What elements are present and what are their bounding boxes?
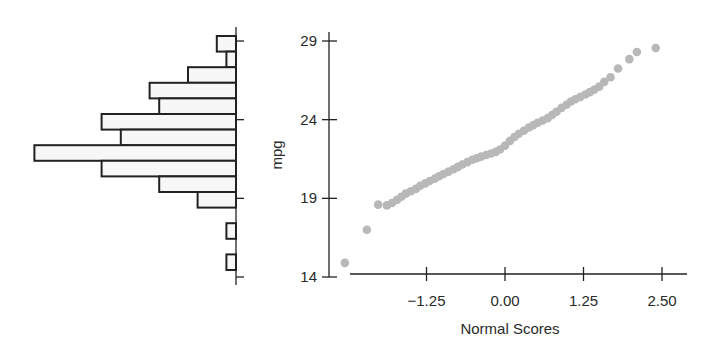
mpg-histogram <box>34 36 236 270</box>
histogram-bar <box>226 254 236 270</box>
histogram-bar <box>159 176 236 192</box>
x-tick-label: 1.25 <box>569 292 598 309</box>
chart-figure: 14192429−1.250.001.252.50 mpg Normal Sco… <box>0 0 716 349</box>
x-axis-title: Normal Scores <box>460 320 559 337</box>
data-point <box>651 44 660 53</box>
histogram-axis <box>236 27 244 285</box>
data-point <box>625 55 634 64</box>
histogram-bar <box>217 36 236 52</box>
y-tick-label: 14 <box>300 268 317 285</box>
data-point <box>614 64 623 73</box>
scatter-axes: 14192429−1.250.001.252.50 <box>300 32 687 309</box>
data-point <box>606 73 615 82</box>
data-point <box>633 48 642 57</box>
x-tick-label: 2.50 <box>647 292 676 309</box>
histogram-bar <box>102 161 236 177</box>
histogram-bar <box>226 223 236 239</box>
y-axis-title: mpg <box>268 140 285 169</box>
histogram-bar <box>226 52 236 68</box>
x-tick-label: 0.00 <box>490 292 519 309</box>
data-point <box>341 259 350 268</box>
histogram-bar <box>159 98 236 114</box>
histogram-bar <box>121 130 236 146</box>
y-tick-label: 29 <box>300 32 317 49</box>
chart-canvas: 14192429−1.250.001.252.50 mpg Normal Sco… <box>0 0 716 349</box>
x-tick-label: −1.25 <box>408 292 446 309</box>
histogram-bar <box>34 145 236 161</box>
data-point <box>363 226 372 235</box>
histogram-bar <box>150 83 236 99</box>
y-tick-label: 24 <box>300 111 317 128</box>
y-tick-label: 19 <box>300 189 317 206</box>
histogram-bar <box>102 114 236 130</box>
histogram-bar <box>198 192 236 208</box>
histogram-bar <box>188 67 236 83</box>
scatter-points <box>341 44 660 267</box>
data-point <box>374 200 383 209</box>
